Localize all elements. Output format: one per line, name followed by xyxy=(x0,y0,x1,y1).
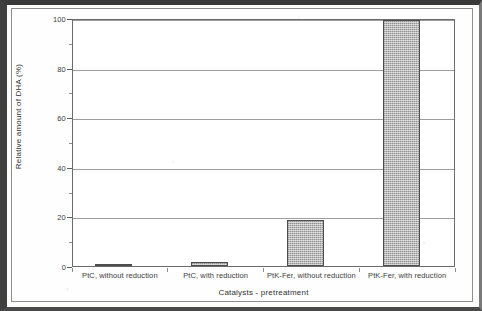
chart-screenshot: Relative amount of DHA (%) 100 80 60 40 … xyxy=(0,0,482,311)
page-border xyxy=(0,0,482,311)
